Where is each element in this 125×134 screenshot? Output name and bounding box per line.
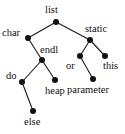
tree-node-label-parameter: parameter bbox=[67, 85, 109, 96]
tree-edge-endl-to-do bbox=[22, 60, 42, 82]
tree-node-this bbox=[102, 53, 108, 59]
tree-node-label-static: static bbox=[85, 24, 107, 35]
tree-node-heap bbox=[52, 77, 58, 83]
tree-edge-do-to-else bbox=[22, 82, 33, 111]
tree-node-do bbox=[19, 79, 25, 85]
tree-edge-list-to-char bbox=[28, 22, 56, 38]
tree-node-label-or: or bbox=[66, 61, 75, 72]
tree-node-label-list: list bbox=[45, 5, 58, 16]
binary-tree-diagram: listcharstaticendlorthisdoheapparametere… bbox=[0, 0, 125, 134]
tree-node-endl bbox=[39, 57, 45, 63]
tree-node-static bbox=[87, 37, 93, 43]
tree-node-or bbox=[77, 53, 83, 59]
tree-node-label-endl: endl bbox=[40, 45, 58, 56]
tree-node-label-char: char bbox=[2, 28, 20, 39]
tree-node-parameter bbox=[90, 76, 96, 82]
tree-edge-or-to-parameter bbox=[80, 56, 93, 79]
tree-node-label-else: else bbox=[24, 117, 40, 128]
tree-node-label-heap: heap bbox=[45, 86, 65, 97]
tree-edges-group bbox=[22, 22, 105, 111]
tree-edge-static-to-this bbox=[90, 40, 105, 56]
tree-edge-endl-to-heap bbox=[42, 60, 55, 80]
tree-node-char bbox=[25, 35, 31, 41]
tree-node-else bbox=[30, 108, 36, 114]
tree-node-label-this: this bbox=[103, 61, 118, 72]
tree-node-list bbox=[53, 19, 59, 25]
tree-node-label-do: do bbox=[6, 71, 17, 82]
